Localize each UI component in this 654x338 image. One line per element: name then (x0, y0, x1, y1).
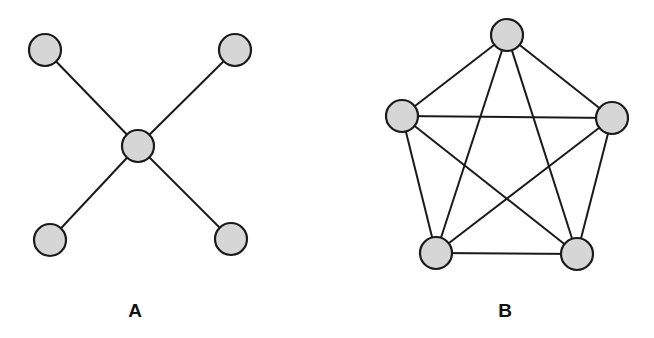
edge-top-right (507, 35, 612, 118)
diagram-a-star-network: A (29, 34, 251, 321)
network-topology-figure: A B (0, 0, 654, 338)
node-right (596, 102, 628, 134)
edge-right-bottom-right (577, 118, 612, 254)
edge-top-bottom-right (507, 35, 577, 254)
node-bottom-left (34, 224, 66, 256)
node-left (386, 100, 418, 132)
edge-left-bottom-left (402, 116, 436, 253)
edge-top-left (402, 35, 507, 116)
node-bottom-right (561, 238, 593, 270)
edge-center-bottom-left (50, 146, 138, 240)
edge-left-right (402, 116, 612, 118)
edge-center-top-right (138, 50, 235, 146)
edge-right-bottom-left (436, 118, 612, 253)
node-bottom-left (420, 237, 452, 269)
node-top (491, 19, 523, 51)
diagram-b-mesh-network: B (386, 19, 628, 321)
node-center (122, 130, 154, 162)
node-top-left (29, 34, 61, 66)
edge-left-bottom-right (402, 116, 577, 254)
node-bottom-right (215, 223, 247, 255)
edge-bottom-left-bottom-right (436, 253, 577, 254)
diagram-label-b: B (498, 300, 512, 321)
edge-center-top-left (45, 50, 138, 146)
edge-center-bottom-right (138, 146, 231, 239)
edge-top-bottom-left (436, 35, 507, 253)
node-top-right (219, 34, 251, 66)
diagram-label-a: A (128, 300, 142, 321)
